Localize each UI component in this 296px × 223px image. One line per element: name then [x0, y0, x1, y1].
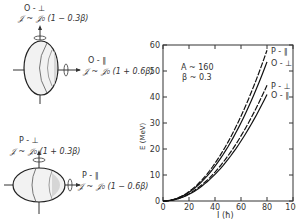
prolate-perp-formula: 𝒥 ~ 𝒥₀ (1 + 0.3β) [9, 147, 81, 156]
oblate-perp-label: O - ⊥ [24, 4, 45, 13]
x-tick-label: 60 [236, 203, 246, 212]
curve-1 [163, 62, 267, 201]
oblate-par-formula: 𝒥 ~ 𝒥₀ (1 + 0.6β) [82, 67, 154, 76]
prolate-perp-label: P - ⊥ [19, 136, 39, 145]
x-tick-label: 80 [262, 203, 272, 212]
series-label: O - ⊥ [271, 59, 292, 68]
curve-0 [163, 50, 267, 201]
prolate-par-label: P - ∥ [82, 171, 99, 180]
y-tick-label: 10 [150, 171, 160, 180]
y-tick-label: 40 [150, 93, 160, 102]
series-labels: P - ∥O - ⊥P - ⊥O - ∥ [271, 47, 292, 100]
x-axis-label: I (ħ) [217, 211, 234, 220]
prolate-ellipsoid-diagram [4, 150, 81, 214]
annotation-beta: β ~ 0.3 [182, 73, 212, 82]
y-axis-label: E (MeV) [139, 122, 147, 150]
y-tick-label: 0 [155, 197, 160, 206]
curve-2 [163, 85, 267, 201]
series-label: P - ⊥ [271, 82, 291, 91]
y-tick-label: 30 [150, 119, 160, 128]
annotation-mass: A ~ 160 [181, 63, 214, 72]
curve-3 [163, 94, 267, 201]
y-tick-label: 50 [150, 67, 160, 76]
oblate-perp-formula: 𝒥 ~ 𝒥₀ (1 − 0.3β) [17, 14, 89, 23]
series-label: P - ∥ [271, 47, 288, 56]
series-label: O - ∥ [271, 91, 289, 100]
figure-canvas: O - ⊥ 𝒥 ~ 𝒥₀ (1 − 0.3β) O - ∥ 𝒥 ~ 𝒥₀ (1 … [0, 0, 296, 223]
chart-curves [163, 50, 267, 201]
oblate-par-label: O - ∥ [88, 56, 106, 65]
y-tick-label: 60 [150, 41, 160, 50]
x-tick-label: 20 [184, 203, 194, 212]
x-tick-label: 0 [160, 203, 165, 212]
energy-chart: 0102030405060 020406080100 P - ∥O - ⊥P -… [139, 41, 296, 220]
y-tick-label: 20 [150, 145, 160, 154]
oblate-ellipsoid-diagram [13, 25, 81, 104]
x-tick-label: 100 [285, 203, 296, 212]
prolate-par-formula: 𝒥 ~ 𝒥₀ (1 − 0.6β) [77, 182, 149, 191]
